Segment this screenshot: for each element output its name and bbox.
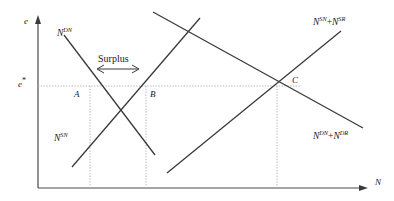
label-superscript: SN	[60, 131, 67, 138]
curve-demand-aggregate	[153, 12, 363, 128]
label-superscript-2: DR	[340, 129, 348, 136]
curve-label-demand-aggregate: NDN+NDR	[313, 132, 348, 142]
supply-demand-diagram: e N e* NDN NSN NSN+NSR NDN+NDR A B C Sur…	[0, 0, 394, 201]
y-axis-arrowhead	[35, 15, 41, 24]
x-axis-label: N	[375, 178, 381, 187]
equilibrium-wage-tick-label: e*	[18, 80, 26, 89]
label-superscript-2: SR	[338, 15, 345, 22]
y-axis-label: e	[24, 17, 28, 26]
curve-label-demand-nurses: NDN	[57, 29, 72, 39]
point-label-c: C	[292, 76, 298, 85]
surplus-annotation-label: Surplus	[98, 54, 129, 64]
curve-label-supply-nurses: NSN	[54, 134, 68, 144]
point-label-b: B	[150, 90, 156, 99]
point-label-a: A	[74, 90, 80, 99]
label-superscript: DN	[63, 26, 72, 33]
curve-label-supply-aggregate: NSN+NSR	[313, 18, 345, 28]
x-axis-arrowhead	[359, 185, 368, 191]
label-superscript: DN	[319, 129, 328, 136]
estar-superscript: *	[22, 76, 26, 85]
surplus-arrow	[97, 65, 139, 73]
curve-supply-nurses	[72, 18, 200, 167]
label-superscript: SN	[319, 15, 326, 22]
